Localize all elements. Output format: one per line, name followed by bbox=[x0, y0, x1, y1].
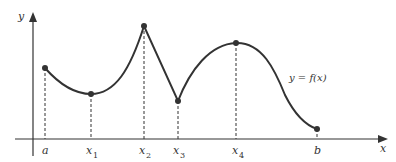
label-x1: x bbox=[86, 144, 93, 157]
point-x1 bbox=[88, 91, 94, 97]
label-b: b bbox=[314, 144, 321, 157]
point-x3 bbox=[175, 98, 181, 104]
y-axis-arrow-icon bbox=[29, 12, 37, 22]
point-a bbox=[42, 65, 48, 71]
x-axis-label: x bbox=[380, 142, 387, 155]
label-x3: x bbox=[173, 144, 180, 157]
label-x3-sub: 3 bbox=[180, 151, 185, 160]
point-x2 bbox=[141, 23, 147, 29]
function-curve bbox=[45, 26, 317, 129]
point-b bbox=[314, 126, 320, 132]
point-x4 bbox=[233, 40, 239, 46]
label-x2: x bbox=[139, 144, 146, 157]
dashed-guides bbox=[45, 26, 317, 139]
label-x4-sub: 4 bbox=[239, 151, 244, 160]
label-x2-sub: 2 bbox=[146, 151, 151, 160]
label-a: a bbox=[42, 144, 49, 157]
label-x1-sub: 1 bbox=[93, 151, 98, 160]
curve-label: y = f(x) bbox=[288, 72, 327, 83]
y-axis-label: y bbox=[17, 10, 25, 23]
label-x4: x bbox=[232, 144, 239, 157]
function-graph: y x y = f(x) a x 1 x 2 x 3 x 4 b bbox=[0, 0, 396, 162]
